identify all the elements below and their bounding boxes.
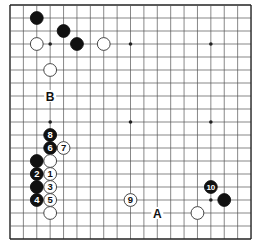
black-stone: 2 — [30, 168, 43, 181]
white-stone — [191, 207, 204, 220]
marker-label-b: B — [46, 90, 55, 104]
black-stone — [57, 25, 70, 38]
black-stone: 8 — [44, 129, 57, 142]
black-stone — [30, 155, 43, 168]
go-board: BA 86721345910 — [0, 0, 257, 248]
move-number: 4 — [34, 194, 40, 205]
star-point — [48, 42, 52, 46]
white-stone: 1 — [44, 168, 57, 181]
white-stone — [44, 207, 57, 220]
black-stone — [30, 181, 43, 194]
move-number: 5 — [48, 194, 54, 205]
move-number: 1 — [48, 168, 54, 179]
star-point — [209, 198, 213, 202]
black-stone — [218, 194, 231, 207]
star-point — [129, 120, 133, 124]
white-stone: 5 — [44, 194, 57, 207]
black-stone — [30, 12, 43, 25]
star-point — [209, 42, 213, 46]
white-stone — [44, 64, 57, 77]
black-stone — [71, 38, 84, 51]
star-point — [209, 120, 213, 124]
move-number: 9 — [128, 194, 133, 205]
white-stone — [44, 155, 57, 168]
black-stone: 10 — [204, 181, 217, 194]
move-number: 8 — [48, 129, 53, 140]
white-stone — [97, 38, 110, 51]
move-number: 10 — [206, 183, 215, 192]
white-stone: 7 — [57, 142, 70, 155]
move-number: 3 — [48, 181, 53, 192]
black-stone: 4 — [30, 194, 43, 207]
star-point — [129, 42, 133, 46]
move-number: 2 — [34, 168, 39, 179]
move-number: 7 — [61, 142, 66, 153]
black-stone: 6 — [44, 142, 57, 155]
white-stone: 9 — [124, 194, 137, 207]
marker-label-a: A — [153, 207, 162, 221]
white-stone: 3 — [44, 181, 57, 194]
star-point — [48, 120, 52, 124]
move-number: 6 — [48, 142, 53, 153]
white-stone — [30, 38, 43, 51]
